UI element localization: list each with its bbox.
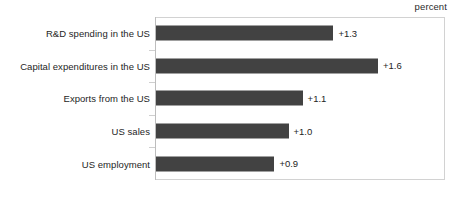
bar-value-label: +1.1: [303, 93, 327, 104]
axis-tick: [149, 147, 155, 148]
category-label: Capital expenditures in the US: [20, 60, 150, 71]
bar[interactable]: [156, 156, 274, 171]
table-row: Exports from the US +1.1: [0, 82, 461, 115]
table-row: R&D spending in the US +1.3: [0, 17, 461, 50]
bar-value-label: +1.3: [333, 28, 357, 39]
table-row: US sales +1.0: [0, 115, 461, 148]
axis-tick: [149, 50, 155, 51]
bar-track: +1.1: [156, 91, 445, 106]
bar-rows: R&D spending in the US +1.3 Capital expe…: [0, 17, 461, 180]
bar-track: +0.9: [156, 156, 445, 171]
axis-tick: [149, 82, 155, 83]
table-row: Capital expenditures in the US +1.6: [0, 50, 461, 83]
bar-value-label: +1.6: [378, 60, 402, 71]
bar[interactable]: [156, 58, 378, 73]
bar-track: +1.0: [156, 124, 445, 139]
table-row: US employment +0.9: [0, 147, 461, 180]
category-label: Exports from the US: [64, 93, 150, 104]
bar[interactable]: [156, 26, 333, 41]
bar-track: +1.6: [156, 58, 445, 73]
category-label: US employment: [82, 158, 150, 169]
bar[interactable]: [156, 91, 303, 106]
chart-figure: percent R&D spending in the US +1.3 Capi…: [0, 0, 461, 198]
axis-tick: [149, 115, 155, 116]
category-label: R&D spending in the US: [46, 28, 150, 39]
bar[interactable]: [156, 124, 289, 139]
bar-value-label: +0.9: [274, 158, 298, 169]
bar-track: +1.3: [156, 26, 445, 41]
bar-value-label: +1.0: [289, 126, 313, 137]
category-label: US sales: [112, 126, 150, 137]
unit-caption: percent: [415, 1, 447, 12]
